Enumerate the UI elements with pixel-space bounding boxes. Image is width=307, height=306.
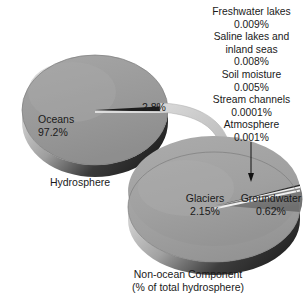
component-atmosphere-label: Atmosphere (196, 119, 307, 132)
pie2-glaciers-name: Glaciers (172, 192, 238, 205)
pie2-groundwater-value: 0.62% (236, 205, 306, 218)
pie1-caption: Hydrosphere (20, 176, 140, 189)
component-saline-lakes-label: Saline lakes and (196, 31, 307, 44)
component-freshwater-lakes-label: Freshwater lakes (196, 6, 307, 19)
hydrosphere-figure: Freshwater lakes 0.009% Saline lakes and… (0, 0, 307, 306)
pie2-caption-line1: Non-ocean Component (103, 268, 273, 281)
component-stream-channels-value: 0.0001% (196, 107, 307, 120)
component-soil-moisture-label: Soil moisture (196, 69, 307, 82)
component-stream-channels-label: Stream channels (196, 94, 307, 107)
pie2-groundwater-name: Groundwater (236, 192, 306, 205)
pie1-oceans-name: Oceans (38, 113, 74, 126)
pie2-glaciers-value: 2.15% (172, 205, 238, 218)
pie1-sliver-value: 2.8% (142, 101, 166, 114)
pie2-caption: Non-ocean Component (% of total hydrosph… (103, 268, 273, 293)
pie1-oceans-label: Oceans 97.2% (38, 113, 74, 138)
pie2-glaciers-label: Glaciers 2.15% (172, 192, 238, 217)
pie2-groundwater-label: Groundwater 0.62% (236, 192, 306, 217)
pie1-oceans-value: 97.2% (38, 126, 74, 139)
component-freshwater-lakes-value: 0.009% (196, 19, 307, 32)
pie2-caption-line2: (% of total hydrosphere) (103, 281, 273, 294)
component-atmosphere-value: 0.001% (196, 132, 307, 145)
component-soil-moisture-value: 0.005% (196, 82, 307, 95)
component-list: Freshwater lakes 0.009% Saline lakes and… (196, 6, 307, 145)
component-saline-lakes-label-cont: inland seas (196, 44, 307, 57)
component-saline-lakes-value: 0.008% (196, 56, 307, 69)
